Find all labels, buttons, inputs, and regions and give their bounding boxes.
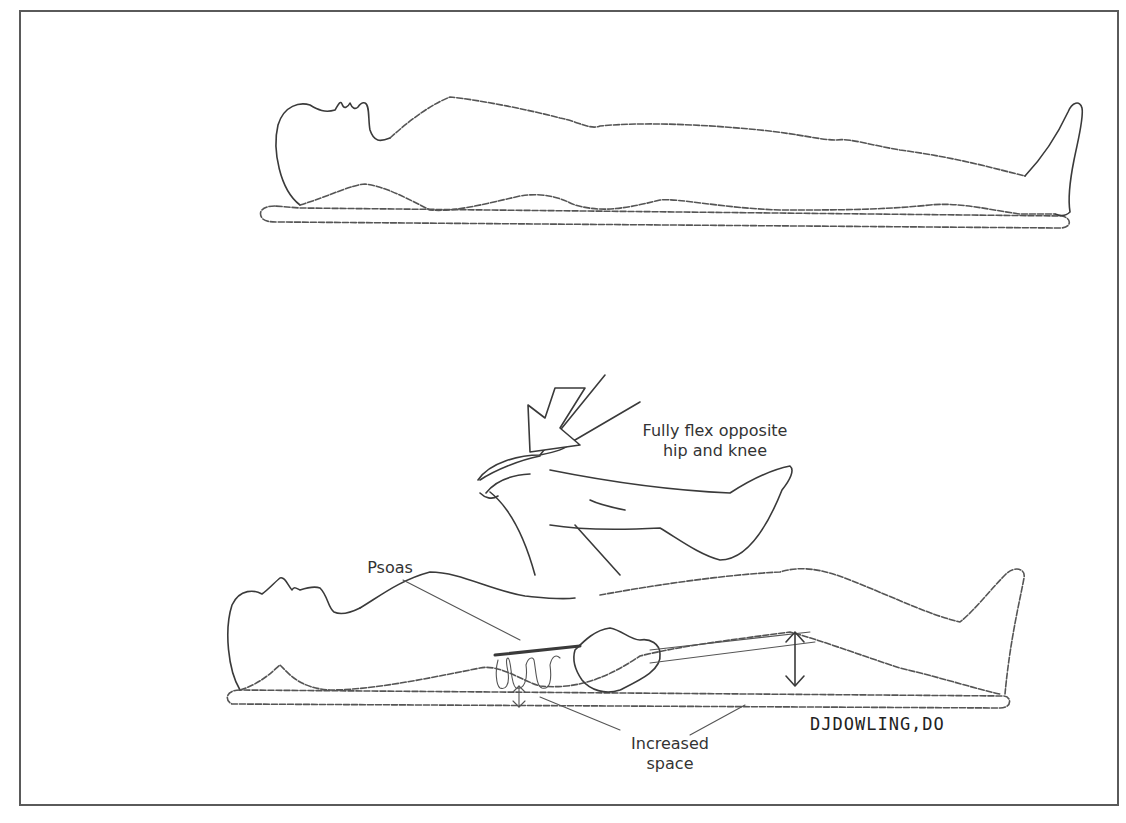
illustration xyxy=(0,0,1126,823)
result-line-2: space xyxy=(600,754,740,774)
bottom-table xyxy=(227,690,1009,708)
psoas-label: Psoas xyxy=(350,558,430,578)
instruction-label: Fully flex opposite hip and knee xyxy=(595,421,835,461)
instruction-line-1: Fully flex opposite xyxy=(595,421,835,441)
result-line-1: Increased xyxy=(600,734,740,754)
top-patient-figure xyxy=(276,97,1082,215)
top-table xyxy=(261,206,1070,228)
increased-space-label: Increased space xyxy=(600,734,740,774)
instruction-line-2: hip and knee xyxy=(595,441,835,461)
artist-signature: DJDOWLING,DO xyxy=(810,714,945,734)
